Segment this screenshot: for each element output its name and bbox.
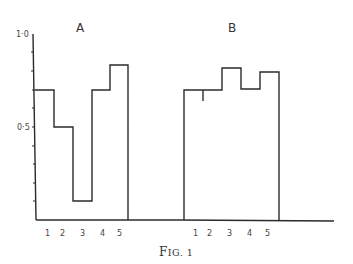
x-label: 3: [227, 229, 232, 238]
x-label: 3: [80, 229, 85, 238]
x-label: 5: [117, 229, 122, 238]
y-label-1-0: 1·0: [16, 30, 29, 39]
figure-caption: FIG. 1: [159, 245, 193, 259]
figure-1: A 1·0 0·5 1 2 3 4 5 B: [0, 0, 353, 264]
panel-a: A 1·0 0·5 1 2 3 4 5: [16, 21, 180, 238]
x-label: 4: [247, 229, 252, 238]
x-label: 1: [45, 229, 50, 238]
x-label: 5: [265, 229, 270, 238]
panel-b-x-labels: 1 2 3 4 5: [193, 229, 270, 238]
x-label: 4: [100, 229, 105, 238]
panel-b-x-axis: [180, 220, 334, 221]
x-label: 1: [193, 229, 198, 238]
caption-text: FIG. 1: [159, 245, 193, 259]
panel-b-histogram: [184, 68, 279, 220]
x-label: 2: [60, 229, 65, 238]
x-label: 2: [207, 229, 212, 238]
y-label-0-5: 0·5: [17, 123, 30, 132]
panel-a-title: A: [76, 21, 85, 35]
panel-b-title: B: [228, 21, 236, 35]
panel-a-histogram: [35, 65, 128, 220]
panel-b: B 1 2 3 4 5: [180, 21, 334, 238]
panel-a-x-labels: 1 2 3 4 5: [45, 229, 122, 238]
